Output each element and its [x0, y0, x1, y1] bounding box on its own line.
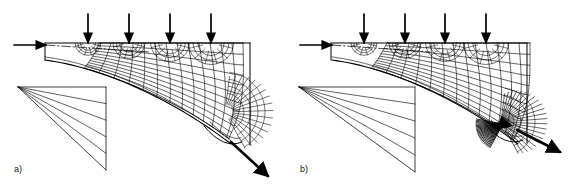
panel-b-label: b) — [300, 164, 308, 174]
panel-a-label: a) — [14, 164, 22, 174]
slip-line-field-figure: a) b) — [0, 0, 573, 191]
figure-container: a) b) — [0, 0, 573, 191]
canvas-background — [0, 0, 573, 191]
